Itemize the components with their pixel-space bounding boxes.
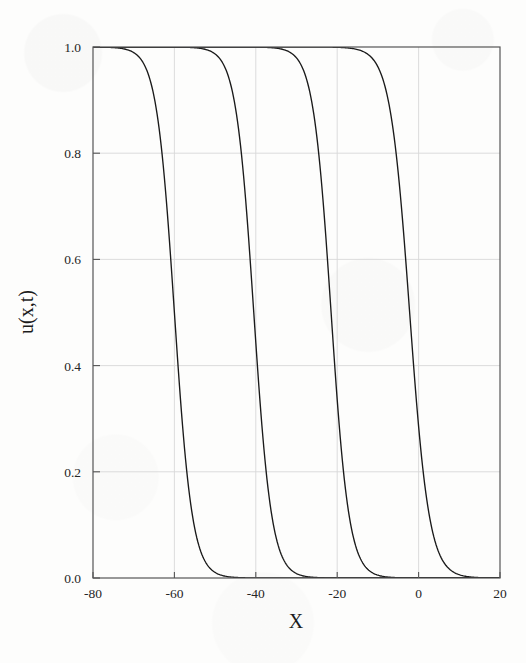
plot-frame (93, 47, 500, 578)
curve-front-4 (93, 47, 500, 578)
x-tick-label: 20 (493, 586, 507, 601)
y-tick-label: 0.4 (64, 359, 81, 374)
x-tick-labels: -80-60-40-20020 (84, 586, 507, 601)
x-axis-title: X (289, 610, 304, 632)
y-tick-labels: 0.00.20.40.60.81.0 (64, 40, 81, 586)
curve-front-3 (93, 47, 500, 578)
y-tick-label: 1.0 (64, 40, 81, 55)
x-tick-label: -60 (165, 586, 183, 601)
gridlines (93, 47, 500, 578)
tick-marks (93, 47, 500, 578)
x-tick-label: -20 (328, 586, 346, 601)
y-tick-label: 0.2 (64, 465, 81, 480)
x-tick-label: -40 (247, 586, 265, 601)
plot-canvas: -80-60-40-20020 0.00.20.40.60.81.0 X u(x… (0, 0, 526, 663)
y-tick-label: 0.0 (64, 571, 81, 586)
chart-figure: -80-60-40-20020 0.00.20.40.60.81.0 X u(x… (0, 0, 526, 663)
x-tick-label: -80 (84, 586, 102, 601)
curve-front-2 (93, 47, 500, 578)
y-tick-label: 0.6 (64, 252, 81, 267)
y-tick-label: 0.8 (64, 146, 81, 161)
curve-front-1 (93, 47, 500, 578)
y-axis-title: u(x,t) (15, 290, 38, 334)
data-curves (93, 47, 500, 578)
x-tick-label: 0 (415, 586, 422, 601)
